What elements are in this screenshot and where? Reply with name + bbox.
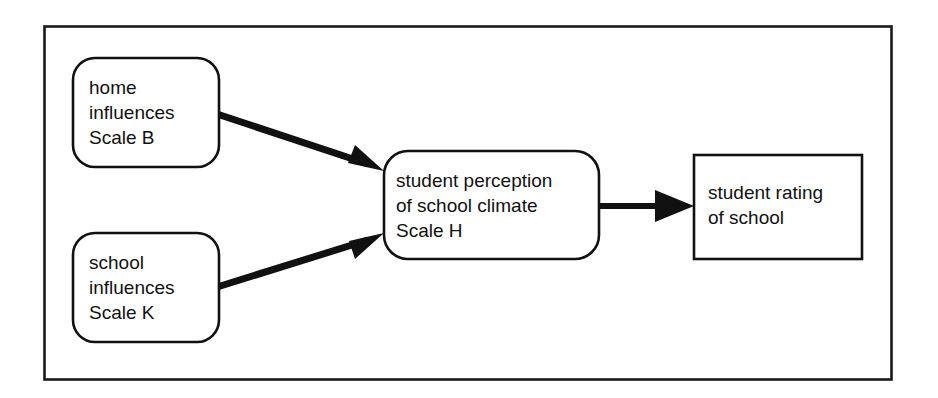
edge-home-to-perception-line <box>214 113 368 164</box>
node-home-influences-line-1: home <box>89 77 137 98</box>
edge-perception-to-rating <box>598 190 694 222</box>
edge-perception-to-rating-arrowhead <box>655 190 694 222</box>
node-student-rating-line-1: student rating <box>708 182 823 203</box>
node-school-influences-line-1: school <box>89 252 144 273</box>
path-diagram: home influences Scale B school influence… <box>0 0 938 398</box>
node-student-rating[interactable]: student rating of school <box>694 155 862 259</box>
node-home-influences-line-2: influences <box>89 102 175 123</box>
node-school-influences[interactable]: school influences Scale K <box>73 233 219 342</box>
node-student-perception-line-2: of school climate <box>396 195 538 216</box>
node-school-influences-line-3: Scale K <box>89 302 155 323</box>
node-home-influences-line-3: Scale B <box>89 127 154 148</box>
edge-home-to-perception-arrowhead <box>348 145 384 171</box>
node-student-rating-line-2: of school <box>708 207 784 228</box>
edge-school-to-perception-line <box>214 240 368 288</box>
diagram-canvas: home influences Scale B school influence… <box>0 0 938 398</box>
node-student-perception[interactable]: student perception of school climate Sca… <box>384 151 599 259</box>
node-home-influences[interactable]: home influences Scale B <box>73 58 219 167</box>
node-student-perception-line-1: student perception <box>396 170 552 191</box>
node-school-influences-line-2: influences <box>89 277 175 298</box>
node-student-perception-line-3: Scale H <box>396 220 463 241</box>
edge-home-to-perception <box>214 113 384 171</box>
edge-school-to-perception <box>214 233 384 288</box>
